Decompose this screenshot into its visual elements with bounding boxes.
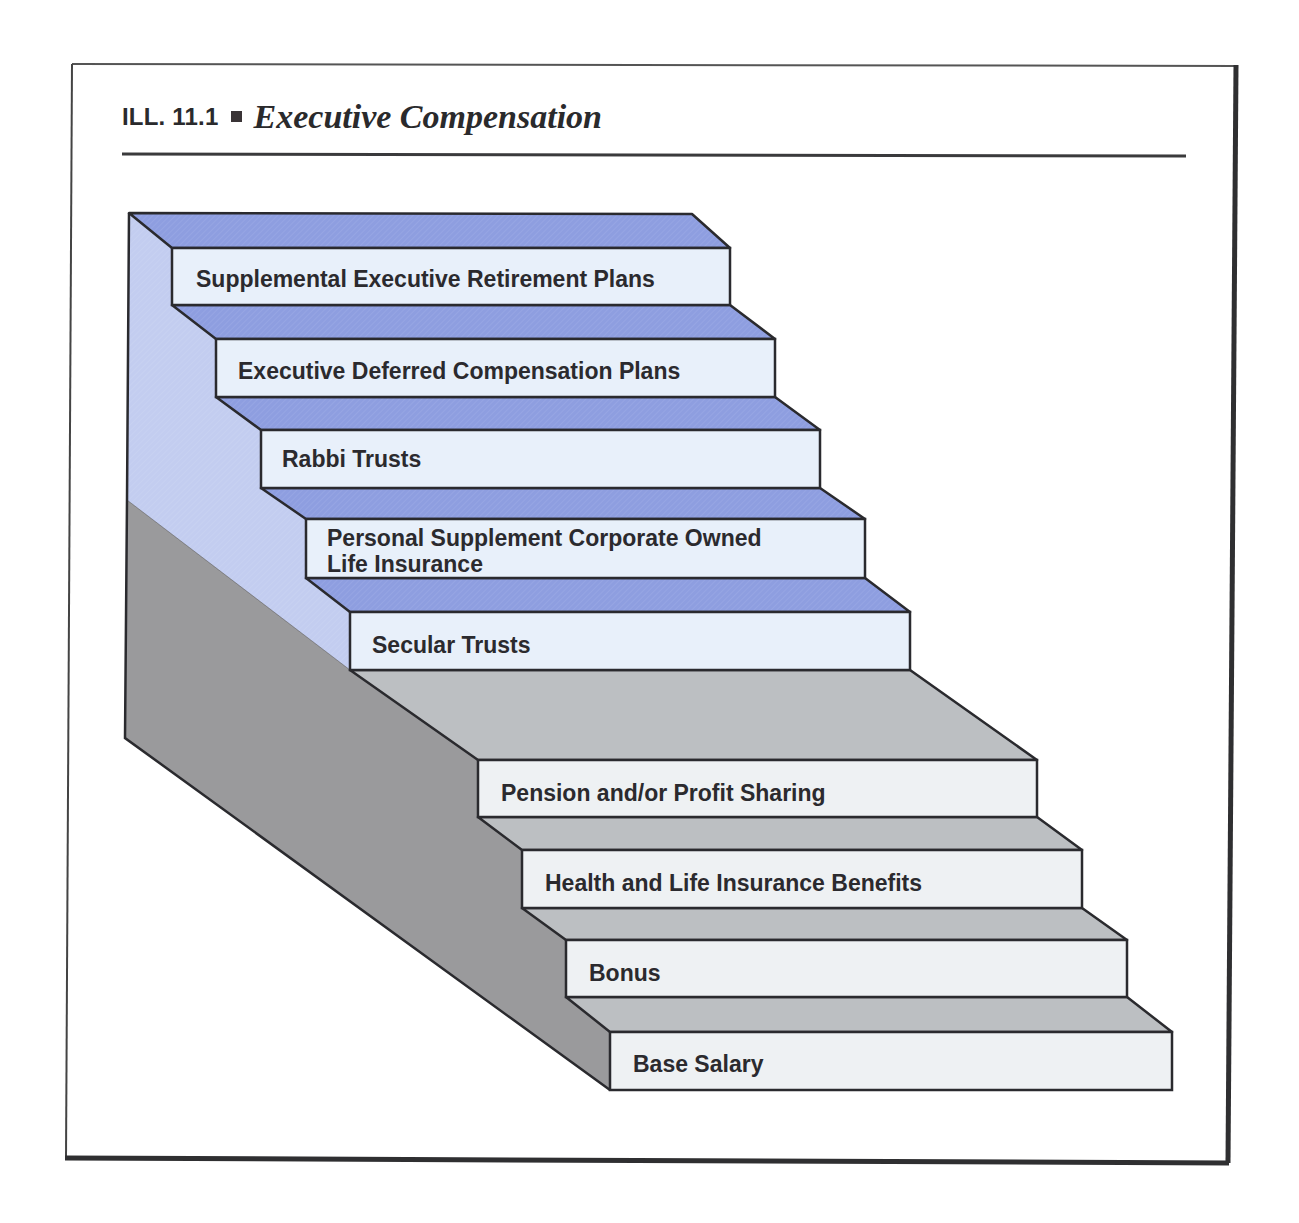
step-label: Supplemental Executive Retirement Plans	[196, 266, 655, 292]
tread-1	[129, 213, 730, 248]
step-base-salary: Base Salary	[610, 1032, 1172, 1090]
tread-5	[306, 578, 910, 612]
step-label: Bonus	[589, 960, 661, 986]
figure-canvas: Supplemental Executive Retirement Plans …	[0, 0, 1299, 1223]
step-label-line2: Life Insurance	[327, 551, 483, 577]
step-label: Base Salary	[633, 1051, 764, 1077]
step-pension-profit-sharing: Pension and/or Profit Sharing	[478, 760, 1037, 817]
square-bullet-icon	[231, 111, 242, 122]
tread-3	[216, 397, 820, 430]
tread-9	[566, 997, 1172, 1032]
figure-title-text: Executive Compensation	[254, 98, 603, 135]
tread-8	[522, 908, 1127, 940]
step-label: Health and Life Insurance Benefits	[545, 870, 922, 896]
figure-number: ILL. 11.1	[122, 103, 219, 130]
step-label: Rabbi Trusts	[282, 446, 421, 472]
step-health-life-insurance: Health and Life Insurance Benefits	[522, 850, 1082, 908]
staircase-diagram: Supplemental Executive Retirement Plans …	[0, 0, 1299, 1223]
step-label-line1: Personal Supplement Corporate Owned	[327, 525, 762, 551]
step-secular-trusts: Secular Trusts	[350, 612, 910, 670]
step-personal-supplement-coli: Personal Supplement Corporate Owned Life…	[306, 519, 865, 578]
step-label: Pension and/or Profit Sharing	[501, 780, 826, 806]
step-label: Secular Trusts	[372, 632, 531, 658]
step-rabbi-trusts: Rabbi Trusts	[261, 430, 820, 488]
step-bonus: Bonus	[566, 940, 1127, 997]
title-rule	[122, 154, 1186, 156]
tread-7	[478, 817, 1082, 850]
step-supplemental-executive-retirement-plans: Supplemental Executive Retirement Plans	[172, 248, 730, 305]
step-label: Executive Deferred Compensation Plans	[238, 358, 680, 384]
tread-4	[261, 488, 865, 519]
step-executive-deferred-compensation-plans: Executive Deferred Compensation Plans	[216, 339, 775, 397]
figure-title: ILL. 11.1Executive Compensation	[122, 98, 602, 136]
tread-2	[172, 305, 775, 339]
